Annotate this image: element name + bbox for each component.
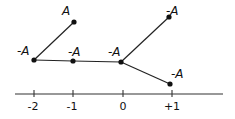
tick-label-0: 0 — [120, 101, 127, 112]
number-line — [15, 90, 223, 97]
edges — [34, 17, 170, 84]
node-label-n2: -A — [17, 45, 30, 57]
node-label-n1: A — [62, 5, 70, 17]
node-label-n6: -A — [171, 68, 184, 80]
tick-label-p1: +1 — [164, 101, 180, 112]
node-n2 — [31, 57, 36, 62]
edge-n4-n5 — [121, 17, 169, 62]
node-label-n4: -A — [108, 46, 121, 58]
node-label-n5: -A — [166, 5, 179, 17]
tick-label-m2: -2 — [28, 101, 39, 112]
edge-n2-n3 — [34, 60, 73, 61]
tick-label-m1: -1 — [67, 101, 78, 112]
node-n1 — [71, 19, 76, 24]
node-n3 — [70, 58, 75, 63]
edge-n4-n6 — [121, 62, 170, 84]
node-label-n3: -A — [68, 46, 81, 58]
edge-n3-n4 — [73, 61, 121, 62]
node-n6 — [167, 81, 172, 86]
node-n4 — [118, 59, 123, 64]
